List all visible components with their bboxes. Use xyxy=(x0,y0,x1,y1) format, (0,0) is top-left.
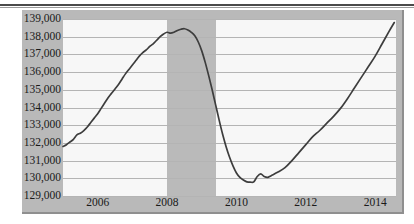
x-tick-label: 2008 xyxy=(156,197,179,209)
y-tick-label: 135,000 xyxy=(24,84,61,96)
y-tick-label: 130,000 xyxy=(24,172,61,184)
gridline-horizontal xyxy=(63,108,396,109)
plot-border-bottom xyxy=(22,212,404,214)
top-rule-thick xyxy=(0,4,414,6)
y-tick-label: 131,000 xyxy=(24,155,61,167)
y-tick-label: 134,000 xyxy=(24,102,61,114)
y-tick-label: 138,000 xyxy=(24,31,61,43)
gridline-horizontal xyxy=(63,72,396,73)
gridline-horizontal xyxy=(63,178,396,179)
y-tick-label: 133,000 xyxy=(24,119,61,131)
gridline-horizontal xyxy=(63,143,396,144)
x-tick-label: 2014 xyxy=(364,197,387,209)
y-axis-tick-labels: 139,000138,000137,000136,000135,000134,0… xyxy=(22,0,61,224)
gridline-horizontal xyxy=(63,161,396,162)
gridline-horizontal xyxy=(63,125,396,126)
y-tick-label: 132,000 xyxy=(24,137,61,149)
gridline-horizontal xyxy=(63,19,396,20)
gridline-horizontal xyxy=(63,54,396,55)
y-tick-label: 139,000 xyxy=(24,13,61,25)
y-tick-label: 136,000 xyxy=(24,66,61,78)
gridline-horizontal xyxy=(63,37,396,38)
x-tick-label: 2010 xyxy=(225,197,248,209)
employment-line-chart: 139,000138,000137,000136,000135,000134,0… xyxy=(0,0,414,224)
y-tick-label: 129,000 xyxy=(24,190,61,202)
plot-border-right xyxy=(402,10,404,214)
y-tick-label: 137,000 xyxy=(24,48,61,60)
gridline-horizontal xyxy=(63,90,396,91)
x-tick-label: 2012 xyxy=(294,197,317,209)
top-rule-thin xyxy=(0,7,414,8)
x-tick-label: 2006 xyxy=(86,197,109,209)
